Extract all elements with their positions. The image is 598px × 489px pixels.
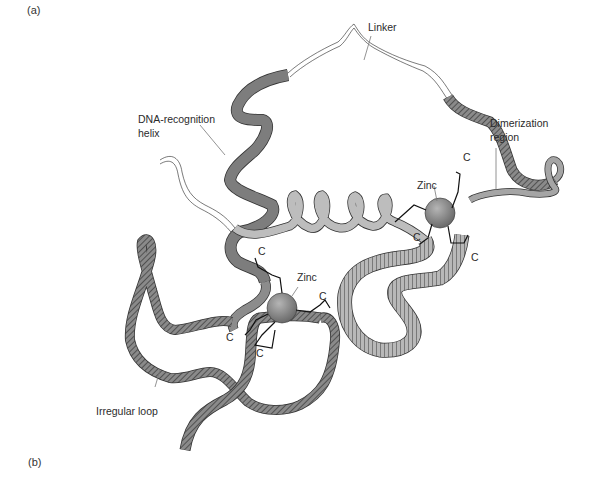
right-striped-loop — [345, 235, 462, 350]
cysteine-label: C — [471, 251, 479, 263]
dimerization-ribbon — [448, 97, 561, 200]
label-zinc-lower: Zinc — [297, 271, 317, 283]
cysteine-label: C — [226, 331, 234, 343]
panel-label-b: (b) — [28, 456, 41, 468]
dna-recognition-helix — [230, 75, 288, 330]
cysteine-label: C — [258, 245, 266, 257]
protein-ribbon-diagram: (a) (b) — [0, 0, 598, 489]
cysteine-label: C — [319, 290, 327, 302]
leader-line-linker — [364, 36, 371, 60]
cysteine-label: C — [413, 231, 421, 243]
zinc-sphere-upper — [425, 198, 455, 228]
zinc-sphere-lower — [267, 293, 297, 323]
label-dna-recognition-helix-line2: helix — [138, 127, 160, 139]
leader-line-dna-helix — [200, 125, 225, 155]
label-irregular-loop: Irregular loop — [96, 405, 158, 417]
cysteine-label: C — [256, 347, 264, 359]
label-zinc-upper: Zinc — [417, 179, 437, 191]
white-strand — [160, 156, 235, 232]
label-linker: Linker — [368, 21, 397, 33]
cysteine-label: C — [463, 151, 471, 163]
leader-line-zinc-lower — [292, 287, 298, 296]
label-dimerization-region: Dimerization — [490, 117, 549, 129]
label-dimerization-region-line2: region — [490, 131, 519, 143]
panel-label-a: (a) — [27, 4, 40, 16]
label-dna-recognition-helix: DNA-recognition — [138, 113, 215, 125]
linker-ribbon — [288, 24, 452, 100]
